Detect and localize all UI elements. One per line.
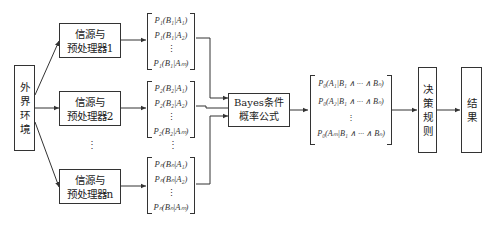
left-bracket [310,75,315,145]
environment-label-char: 界 [20,94,30,108]
posterior-matrix: P₀(A₁|B₁ ∧ ··· ∧ Bₙ) P₀(A₂|B₁ ∧ ··· ∧ Bₙ… [310,75,392,145]
matrix-entry: Pₙ(Bₙ|A₁) [147,157,195,172]
right-bracket [190,157,195,214]
preprocessor-box-2: 信源与 预处理器2 [59,91,121,126]
preprocessor-box-1: 信源与 预处理器1 [59,23,121,58]
preprocessor-label: 信源与 [75,95,105,109]
bayes-label: Bayes条件 [234,96,284,110]
matrix-entry: P₁(B₁|A₂) [147,28,195,43]
bayes-formula-box: Bayes条件 概率公式 [228,93,290,127]
decision-label-char: 策 [423,96,433,110]
matrix-entry: P₁(B₁|Aₘ) [147,56,195,71]
left-bracket [147,81,152,138]
preprocessor-label: 信源与 [75,27,105,41]
preprocessor-label: 信源与 [75,173,105,187]
bayes-label: 概率公式 [239,110,279,124]
preprocessor-box-n: 信源与 预处理器n [59,169,121,204]
posterior-entry: P₀(Aₘ|B₁ ∧ ··· ∧ Bₙ) [310,125,392,143]
matrix-entry: Pₙ(Bₙ|A₂) [147,172,195,187]
left-bracket [147,13,152,70]
left-bracket [147,157,152,214]
matrix-entry: P₁(B₁|A₁) [147,13,195,28]
matrix-ellipsis: ⋮ [147,187,195,200]
posterior-entry: P₀(A₁|B₁ ∧ ··· ∧ Bₙ) [310,75,392,93]
posterior-ellipsis: ⋮ [310,111,392,125]
preprocessor-ellipsis: ⋮ [87,142,93,147]
matrix-entry: P₂(B₂|A₂) [147,96,195,111]
environment-label-char: 外 [20,80,30,94]
matrix-ellipsis-between: ⋮ [168,142,174,147]
decision-label-char: 则 [423,124,433,138]
right-bracket [190,81,195,138]
matrix-entry: P₂(B₂|A₁) [147,81,195,96]
likelihood-matrix-n: Pₙ(Bₙ|A₁) Pₙ(Bₙ|A₂) ⋮ Pₙ(Bₙ|Aₘ) [147,157,195,214]
preprocessor-label: 预处理器1 [67,41,114,55]
matrix-ellipsis: ⋮ [147,111,195,124]
matrix-entry: P₂(B₂|Aₘ) [147,124,195,139]
result-box: 结 果 [461,67,482,153]
likelihood-matrix-1: P₁(B₁|A₁) P₁(B₁|A₂) ⋮ P₁(B₁|Aₘ) [147,13,195,70]
preprocessor-label: 预处理器n [67,187,114,201]
bayes-fusion-diagram: 外 界 环 境 信源与 预处理器1 信源与 预处理器2 ⋮ 信源与 预处理器n … [0,0,495,228]
result-label-char: 果 [467,110,477,124]
decision-label-char: 决 [423,82,433,96]
right-bracket [190,13,195,70]
right-bracket [387,75,392,145]
likelihood-matrix-2: P₂(B₂|A₁) P₂(B₂|A₂) ⋮ P₂(B₂|Aₘ) [147,81,195,138]
matrix-entry: Pₙ(Bₙ|Aₘ) [147,200,195,215]
environment-label-char: 环 [20,108,30,122]
environment-box: 外 界 环 境 [14,65,35,151]
posterior-entry: P₀(A₂|B₁ ∧ ··· ∧ Bₙ) [310,93,392,111]
decision-label-char: 规 [423,110,433,124]
matrix-ellipsis: ⋮ [147,43,195,56]
result-label-char: 结 [467,96,477,110]
decision-rule-box: 决 策 规 则 [418,67,437,153]
preprocessor-label: 预处理器2 [67,109,114,123]
environment-label-char: 境 [20,122,30,136]
